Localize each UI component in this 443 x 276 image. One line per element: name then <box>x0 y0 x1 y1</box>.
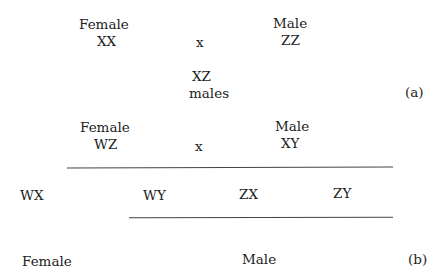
offspring-wx: WX <box>20 187 44 203</box>
panel-label-b: (b) <box>408 251 427 267</box>
male-group-label: Male <box>242 251 276 267</box>
offspring-label: males <box>189 85 229 101</box>
offspring-genotype: XZ <box>192 68 211 84</box>
parent-female-label: Female <box>80 119 130 135</box>
panel-label-a: (a) <box>405 84 424 100</box>
offspring-wy: WY <box>143 187 166 203</box>
offspring-zy: ZY <box>333 185 351 201</box>
parent-female-label: Female <box>79 16 129 32</box>
divider-line-bottom <box>129 217 393 219</box>
parent-male-label: Male <box>273 15 307 31</box>
cross-symbol: x <box>196 34 204 50</box>
female-group-label: Female <box>22 253 72 269</box>
divider-line-top <box>67 167 393 169</box>
parent-male-label: Male <box>275 118 309 134</box>
parent-female-genotype: WZ <box>94 136 117 152</box>
parent-male-genotype: XY <box>281 135 300 151</box>
offspring-zx: ZX <box>239 186 258 202</box>
parent-male-genotype: ZZ <box>281 32 300 48</box>
parent-female-genotype: XX <box>97 33 116 49</box>
cross-symbol: x <box>195 138 203 154</box>
